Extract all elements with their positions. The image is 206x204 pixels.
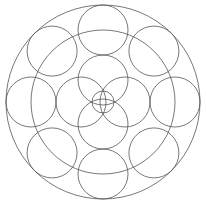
inner-circles: [56, 55, 150, 149]
center-circle: [92, 91, 114, 113]
center-circle-shape: [92, 91, 114, 113]
inner-circle: [78, 55, 128, 105]
outer-circle: [6, 5, 200, 199]
outer-circle-shape: [6, 5, 200, 199]
inner-circle: [56, 77, 106, 127]
inner-circle: [78, 99, 128, 149]
circle-pattern-diagram: [0, 0, 206, 204]
inner-circle: [100, 77, 150, 127]
middle-circle-shape: [31, 30, 175, 174]
middle-circle: [31, 30, 175, 174]
ring-circles: [6, 5, 200, 199]
